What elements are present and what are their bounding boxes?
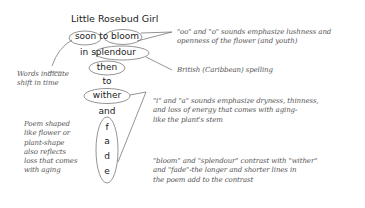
poem-line-2: in splendour — [78, 47, 138, 57]
leader-shift — [48, 40, 72, 72]
poem-line-7: f — [97, 122, 117, 132]
poem-line-3: then — [92, 62, 122, 72]
poem-line-8: a — [97, 136, 117, 146]
annotation-poem-shape: Poem shaped like flower or plant-shape a… — [24, 120, 77, 176]
annotation-contrast: "bloom" and "splendour" contrast with "w… — [153, 157, 317, 185]
poem-line-6: and — [92, 106, 122, 116]
annotation-i-a-sounds: "i" and "a" sounds emphasize dryness, th… — [153, 97, 319, 125]
poem-line-4: to — [92, 76, 122, 86]
poem-title: Little Rosebud Girl — [71, 13, 158, 24]
leader-british — [146, 57, 172, 70]
annotation-oo-sounds: "oo" and "o" sounds emphasize lushness a… — [177, 28, 331, 47]
annotation-shift-in-time: Words indicate shift in time — [17, 70, 69, 89]
annotated-poem-diagram: Little Rosebud Girl soon to bloom in spl… — [0, 0, 365, 208]
leader-i-a — [118, 92, 146, 162]
poem-line-10: e — [97, 166, 117, 176]
poem-line-5: wither — [84, 90, 130, 100]
poem-line-1: soon to bloom — [70, 31, 144, 41]
poem-line-9: d — [97, 151, 117, 161]
annotation-british-spelling: British (Caribbean) spelling — [177, 66, 273, 75]
